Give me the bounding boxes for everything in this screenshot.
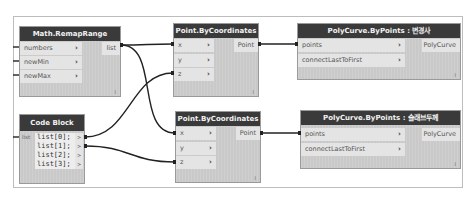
input-port-points[interactable]: points › <box>301 128 405 141</box>
output-port-polycurve[interactable]: PolyCurve <box>422 39 460 52</box>
chevron-right-icon: › <box>398 128 401 141</box>
chevron-right-icon: › <box>207 39 210 52</box>
node-title: PolyCurve.ByPoints : 슬래브두께 <box>301 111 460 125</box>
lacing-indicator: l <box>455 72 456 78</box>
output-port-point[interactable]: Point <box>236 127 260 140</box>
node-title: Code Block <box>20 115 84 131</box>
port-label: x <box>178 41 182 49</box>
node-code-block[interactable]: Code Block list list[0]; list[1]; list[2… <box>19 114 85 184</box>
input-port-connectlasttofirst[interactable]: connectLastToFirst › <box>298 54 405 67</box>
code-line[interactable]: list[1]; <box>35 142 75 151</box>
port-label: points <box>302 41 322 49</box>
node-title: Point.ByCoordinates <box>176 112 260 126</box>
input-port-z[interactable]: z › <box>174 68 214 81</box>
node-point-bycoordinates-bottom[interactable]: Point.ByCoordinates x › y › z › Point l <box>175 111 261 183</box>
input-port-numbers[interactable]: numbers › <box>20 42 82 55</box>
port-label: connectLastToFirst <box>305 145 365 153</box>
lacing-indicator: l <box>115 89 116 95</box>
port-label: y <box>178 56 182 64</box>
chevron-right-icon: › <box>209 127 212 140</box>
node-polycurve-bypoints-top[interactable]: PolyCurve.ByPoints : 변경사 points › connec… <box>297 23 461 80</box>
chevron-right-icon: › <box>398 39 401 52</box>
code-line[interactable]: list[0]; <box>35 133 75 142</box>
port-label: points <box>305 130 325 138</box>
input-port-z[interactable]: z › <box>176 156 216 169</box>
output-port-line-1[interactable]: > <box>75 142 83 151</box>
input-port-newmax[interactable]: newMax › <box>20 70 82 83</box>
input-port-y[interactable]: y › <box>176 142 216 155</box>
chevron-right-icon: › <box>209 142 212 155</box>
input-port-connectlasttofirst[interactable]: connectLastToFirst › <box>301 143 405 156</box>
port-label: z <box>178 70 181 78</box>
node-title: Point.ByCoordinates <box>174 24 258 38</box>
input-port-list[interactable]: list <box>22 134 30 140</box>
port-label: x <box>180 129 184 137</box>
chevron-right-icon: › <box>209 156 212 169</box>
input-port-x[interactable]: x › <box>176 127 216 140</box>
output-port-line-2[interactable]: > <box>75 151 83 160</box>
port-label: z <box>180 158 183 166</box>
input-port-x[interactable]: x › <box>174 39 214 52</box>
port-label: newMax <box>24 72 51 80</box>
port-label: newMin <box>24 58 49 66</box>
output-port-list[interactable]: list <box>102 42 120 55</box>
input-port-y[interactable]: y › <box>174 54 214 67</box>
output-port-polycurve[interactable]: PolyCurve <box>422 128 460 141</box>
chevron-right-icon: › <box>75 42 78 55</box>
node-title: PolyCurve.ByPoints : 변경사 <box>298 24 460 38</box>
chevron-right-icon: › <box>75 70 78 83</box>
output-port-point[interactable]: Point <box>234 39 258 52</box>
node-point-bycoordinates-top[interactable]: Point.ByCoordinates x › y › z › Point l <box>173 23 259 97</box>
chevron-right-icon: › <box>75 56 78 69</box>
lacing-indicator: l <box>255 175 256 181</box>
port-label: connectLastToFirst <box>302 56 362 64</box>
lacing-indicator: l <box>253 89 254 95</box>
code-line[interactable]: list[2]; <box>35 151 75 160</box>
lacing-indicator: l <box>455 161 456 167</box>
input-port-newmin[interactable]: newMin › <box>20 56 82 69</box>
code-line[interactable]: list[3]; <box>35 160 75 169</box>
node-title: Math.RemapRange <box>20 27 120 41</box>
node-polycurve-bypoints-bottom[interactable]: PolyCurve.ByPoints : 슬래브두께 points › conn… <box>300 110 461 169</box>
chevron-right-icon: › <box>398 54 401 67</box>
chevron-right-icon: › <box>207 54 210 67</box>
chevron-right-icon: › <box>398 143 401 156</box>
output-port-line-3[interactable]: > <box>75 160 83 169</box>
port-label: y <box>180 144 184 152</box>
node-math-remaprange[interactable]: Math.RemapRange numbers › newMin › newMa… <box>19 26 121 97</box>
port-label: numbers <box>24 44 53 52</box>
chevron-right-icon: › <box>207 68 210 81</box>
output-port-line-0[interactable]: > <box>75 133 83 142</box>
input-port-points[interactable]: points › <box>298 39 405 52</box>
